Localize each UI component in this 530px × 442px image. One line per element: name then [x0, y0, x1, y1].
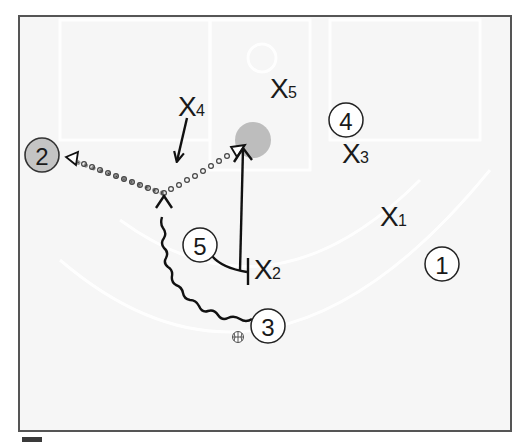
offense-player-1: 1 [425, 247, 459, 281]
svg-text:2: 2 [272, 265, 281, 282]
svg-text:2: 2 [35, 143, 48, 170]
svg-text:5: 5 [288, 84, 297, 101]
offense-player-2: 2 [25, 138, 59, 172]
svg-text:3: 3 [261, 314, 274, 341]
svg-text:4: 4 [339, 108, 352, 135]
basketball-icon [233, 332, 244, 343]
svg-text:X: X [342, 138, 361, 169]
svg-text:5: 5 [193, 233, 206, 260]
offense-player-5: 5 [183, 228, 217, 262]
svg-text:1: 1 [435, 252, 448, 279]
court-frame [19, 16, 511, 431]
play-diagram: 2 4 5 1 3 X 4 X 5 X 3 X 1 X 2 [0, 0, 530, 442]
svg-text:X: X [380, 201, 399, 232]
offense-player-3: 3 [251, 309, 285, 343]
caption-marker [22, 437, 42, 442]
svg-text:3: 3 [360, 149, 369, 166]
svg-text:4: 4 [196, 102, 205, 119]
svg-text:1: 1 [398, 212, 407, 229]
svg-text:X: X [178, 91, 197, 122]
svg-text:X: X [254, 254, 273, 285]
offense-player-4: 4 [329, 103, 363, 137]
svg-text:X: X [270, 73, 289, 104]
